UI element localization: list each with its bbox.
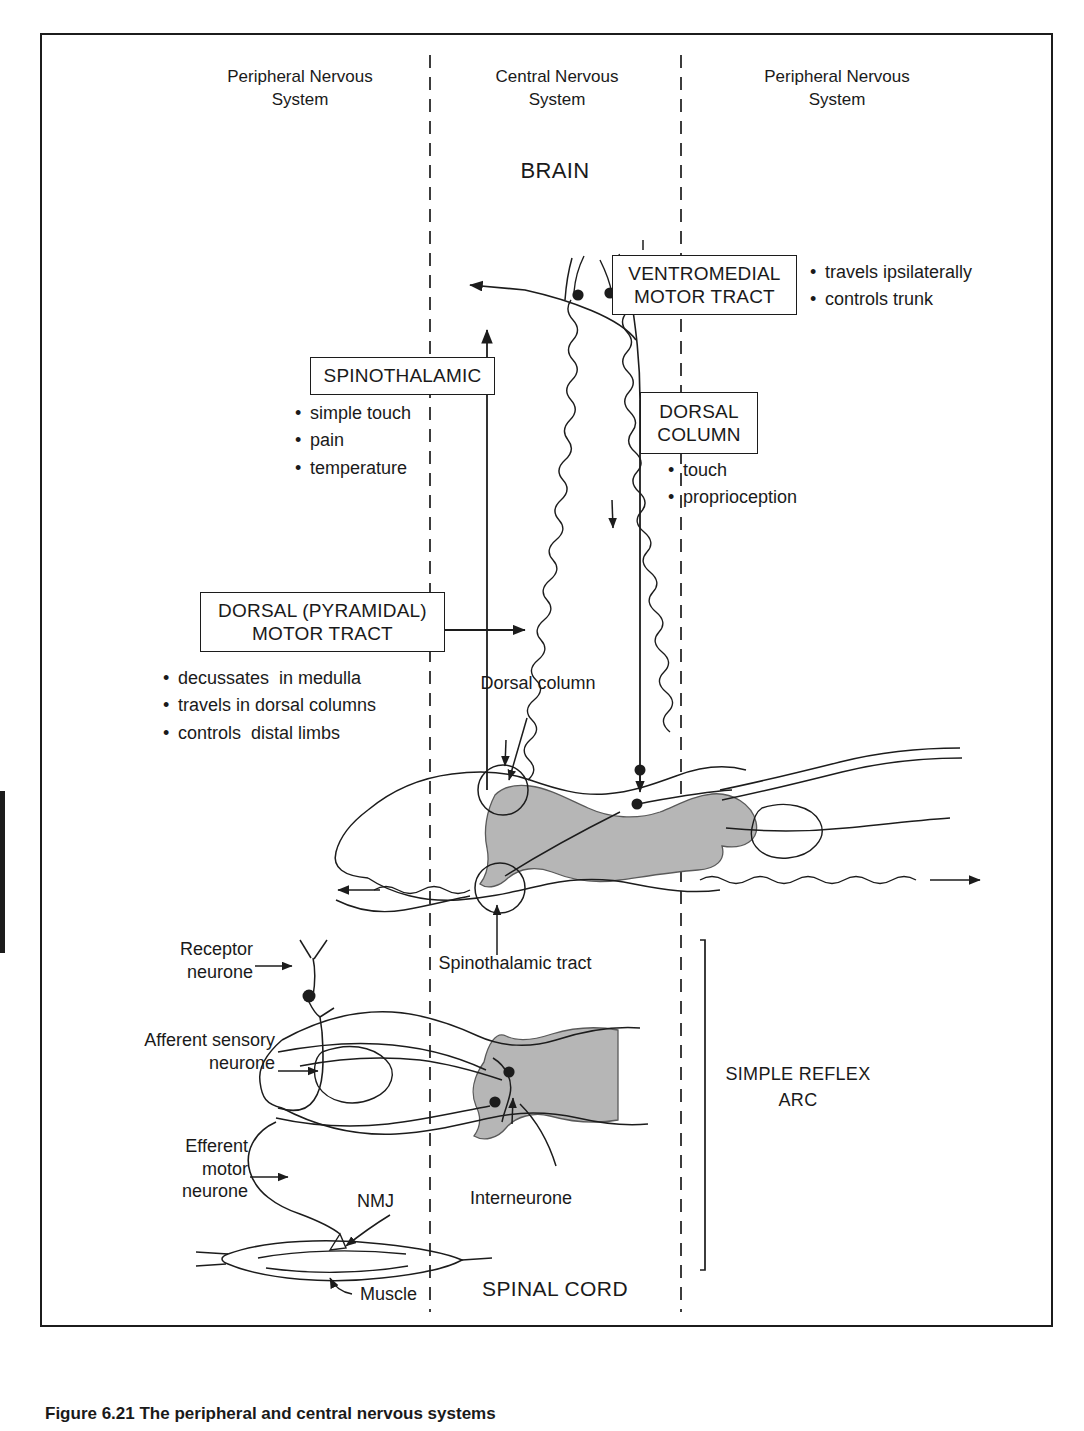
cord-left-wave-lower	[336, 896, 470, 912]
synapse-dot-upper-a	[635, 765, 646, 776]
muscle-outline	[222, 1241, 462, 1281]
efferent-long-axon	[248, 1122, 340, 1234]
grey-matter-upper	[480, 785, 757, 886]
nmj-callout-leader	[346, 1215, 390, 1246]
receptor-terminal-fork-a	[320, 1008, 334, 1017]
bullet-item: travels ipsilaterally	[810, 259, 1060, 286]
interneurone-arrow	[512, 1098, 513, 1124]
brainstem-fork-a	[574, 256, 584, 292]
receptor-axon-lower	[309, 1002, 320, 1017]
annotation-muscle: Muscle	[360, 1283, 460, 1306]
nucleus-dot-left	[572, 289, 583, 300]
bullet-item: touch	[668, 457, 948, 484]
annotation-receptor-neurone: Receptor neurone	[118, 938, 253, 983]
receptor-axon	[313, 958, 315, 996]
figure-page: Peripheral Nervous System Central Nervou…	[0, 0, 1084, 1431]
reflex-arc-bracket	[700, 940, 705, 1270]
bullets-spinothalamic: simple touch pain temperature	[295, 400, 525, 482]
annotation-efferent-motor-neurone: Efferent motor neurone	[140, 1135, 248, 1203]
annotation-simple-reflex-arc: SIMPLE REFLEX ARC	[718, 1062, 878, 1113]
afferent-fibre-lower-2	[300, 1058, 502, 1080]
box-spinothalamic-label: SPINOTHALAMIC	[324, 364, 482, 387]
spinothalamic-wavy-tract	[524, 300, 577, 780]
box-dorsal-pyramidal-motor-tract[interactable]: DORSAL (PYRAMIDAL) MOTOR TRACT	[200, 592, 445, 652]
efferent-fibre-lower	[276, 1106, 490, 1126]
receptor-dendrite-a	[300, 940, 311, 958]
box-dorsal-pyramidal-label: DORSAL (PYRAMIDAL) MOTOR TRACT	[201, 599, 444, 645]
muscle-left-tail	[196, 1252, 228, 1254]
receptor-terminal-fork-b	[320, 1017, 322, 1032]
peripheral-wavy-right	[700, 877, 916, 884]
muscle-right-tail	[462, 1258, 492, 1260]
receptor-cell-body	[303, 990, 316, 1003]
bullets-dorsal-column: touch proprioception	[668, 457, 948, 512]
dorsal-column-direction-arrow	[612, 500, 613, 528]
dorsal-root-upper	[720, 748, 960, 790]
annotation-afferent-sensory-neurone: Afferent sensory neurone	[140, 1029, 275, 1074]
muscle-left-tail-2	[196, 1264, 226, 1266]
box-ventromedial-motor-tract[interactable]: VENTROMEDIAL MOTOR TRACT	[612, 255, 797, 315]
bullet-item: controls distal limbs	[163, 720, 483, 747]
bullet-item: controls trunk	[810, 286, 1060, 313]
bullet-item: decussates in medulla	[163, 665, 483, 692]
box-spinothalamic[interactable]: SPINOTHALAMIC	[310, 357, 495, 395]
muscle-fibre-2	[266, 1266, 408, 1272]
annotation-interneurone: Interneurone	[470, 1187, 650, 1210]
annotation-spinothalamic-tract: Spinothalamic tract	[430, 952, 600, 975]
figure-caption: Figure 6.21 The peripheral and central n…	[45, 1404, 1025, 1431]
dorsal-root-upper-2	[722, 758, 962, 800]
bullet-item: proprioception	[668, 484, 948, 511]
annotation-dorsal-column: Dorsal column	[478, 672, 598, 695]
bullets-dorsal-pyramidal: decussates in medulla travels in dorsal …	[163, 665, 483, 747]
column-header-left: Peripheral Nervous System	[160, 66, 440, 112]
cord-outline-upper-bottom	[368, 878, 720, 900]
box-dorsal-column[interactable]: DORSAL COLUMN	[640, 392, 758, 454]
bullet-item: temperature	[295, 455, 525, 482]
bullet-item: pain	[295, 427, 525, 454]
annotation-nmj: NMJ	[357, 1190, 427, 1213]
spinothalamic-direction-arrow	[505, 740, 506, 766]
region-label-brain: BRAIN	[455, 158, 655, 184]
bullet-item: simple touch	[295, 400, 525, 427]
column-header-right: Peripheral Nervous System	[697, 66, 977, 112]
dorsal-column-wavy-tract	[623, 292, 673, 732]
nmj-terminal	[330, 1234, 346, 1250]
cord-lower-inner-horn	[315, 1046, 393, 1102]
muscle-fibre-1	[258, 1251, 406, 1258]
box-dorsal-column-label: DORSAL COLUMN	[641, 400, 757, 446]
synapse-dot-lower-b	[489, 1096, 500, 1107]
ventral-root-upper	[726, 818, 950, 831]
column-header-center: Central Nervous System	[447, 66, 667, 112]
peripheral-wavy-left	[374, 887, 470, 894]
box-ventromedial-label: VENTROMEDIAL MOTOR TRACT	[613, 262, 796, 308]
bullet-item: travels in dorsal columns	[163, 692, 483, 719]
region-label-spinal-cord: SPINAL CORD	[440, 1277, 670, 1302]
brainstem-left-edge	[565, 258, 572, 300]
bullets-ventromedial: travels ipsilaterally controls trunk	[810, 259, 1060, 314]
cord-outline-upper-left-ridge	[335, 810, 368, 878]
receptor-dendrite-b	[314, 940, 327, 959]
